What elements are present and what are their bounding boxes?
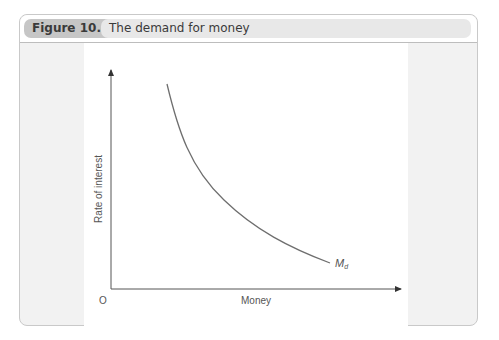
md-label: Md <box>335 257 349 270</box>
md-curve <box>167 84 330 263</box>
origin-label: O <box>99 295 107 306</box>
x-axis-label: Money <box>241 295 271 306</box>
y-axis-label: Rate of interest <box>93 155 104 223</box>
demand-for-money-chart: Md O Money Rate of interest <box>0 0 499 340</box>
